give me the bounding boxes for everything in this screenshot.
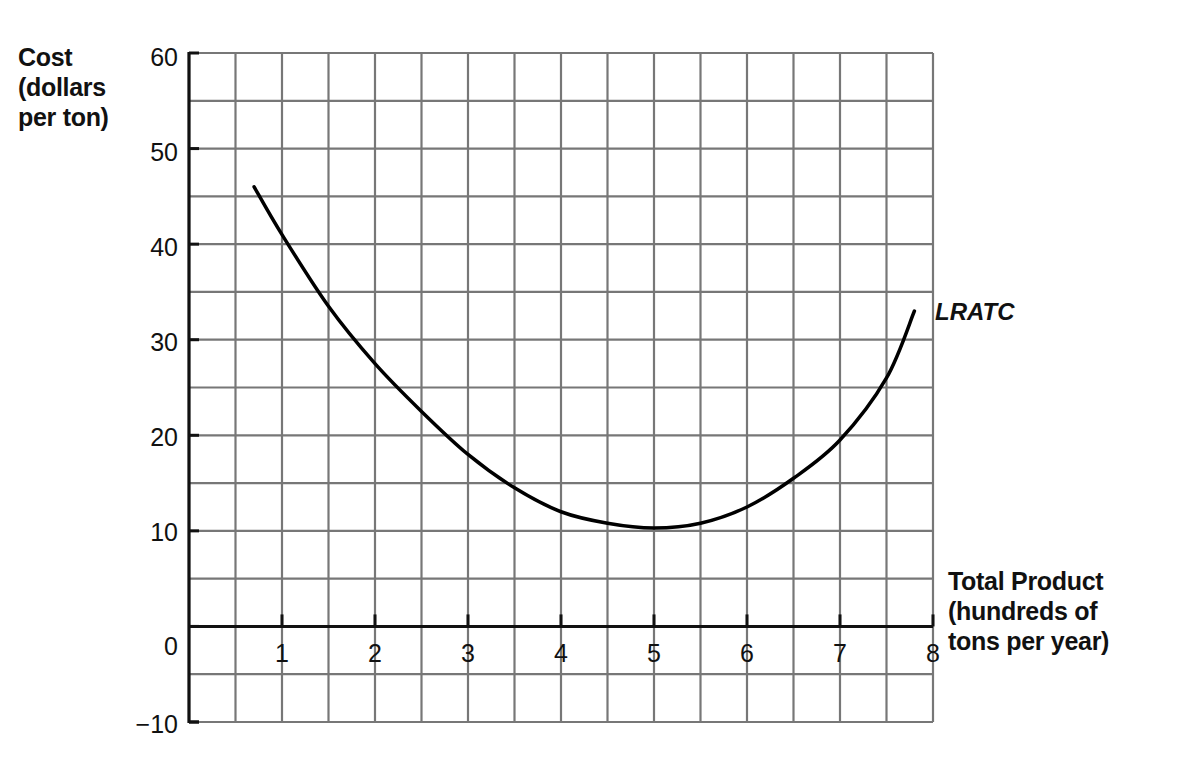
lratc-curve [254, 187, 914, 528]
x-tick-label: 4 [554, 639, 568, 667]
x-tick-label: 5 [647, 639, 661, 667]
lratc-curve-label: LRATC [935, 298, 1015, 326]
x-tick-label: 2 [368, 639, 382, 667]
x-axis-title: Total Product (hundreds of tons per year… [948, 566, 1109, 656]
y-axis-ticks: 60 50 40 30 20 10 0 −10 [136, 43, 178, 738]
y-tick-label: 10 [150, 518, 178, 546]
y-tick-label: −10 [136, 710, 178, 738]
x-tick-label: 1 [275, 639, 289, 667]
y-tick-label: 60 [150, 43, 178, 71]
x-tick-label: 3 [461, 639, 475, 667]
y-tick-label: 40 [150, 233, 178, 261]
x-axis-title-line-2: (hundreds of [948, 596, 1109, 626]
x-tick-label: 6 [740, 639, 754, 667]
x-axis-title-line-1: Total Product [948, 566, 1109, 596]
x-tick-label: 7 [833, 639, 847, 667]
x-axis-title-line-3: tons per year) [948, 626, 1109, 656]
y-tick-label: 50 [150, 138, 178, 166]
y-tick-label: 30 [150, 328, 178, 356]
y-tick-label: 0 [164, 632, 178, 660]
x-tick-label: 8 [926, 639, 940, 667]
y-tick-label: 20 [150, 423, 178, 451]
